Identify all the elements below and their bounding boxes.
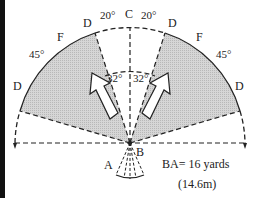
angle-20-right: 20° [141,9,156,21]
label-f-right: F [196,30,203,45]
label-c: C [125,7,133,22]
angle-32-right: 32° [133,72,148,84]
caption-metric: (14.6m) [178,177,216,192]
angle-20-left: 20° [100,9,115,21]
angle-32-left: 32° [107,72,122,84]
angle-45-left: 45° [29,48,44,60]
angle-45-right: 45° [216,48,231,60]
diagram: C 20° 20° D D F F 45° 45° D D 32° 32° B … [0,0,260,198]
caption-distance: BA= 16 yards [162,157,229,172]
left-border [0,0,5,198]
label-d-top-right: D [168,16,177,31]
label-d-right: D [235,79,244,94]
label-f-left: F [57,30,64,45]
point-b-marker [128,141,132,145]
label-b: B [136,145,144,160]
label-a: A [104,158,113,173]
label-d-top-left: D [83,16,92,31]
label-d-left: D [13,79,22,94]
